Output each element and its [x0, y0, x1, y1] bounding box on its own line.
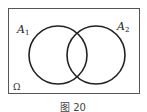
set-a2-label: A2	[116, 20, 129, 34]
venn-diagram: A1 A2 Ω 图 20	[0, 0, 147, 112]
set-a2-circle	[67, 26, 125, 84]
set-a1-label: A1	[16, 23, 29, 37]
set-a1-circle	[29, 26, 87, 84]
figure-caption: 图 20	[60, 102, 86, 112]
universe-label: Ω	[13, 82, 20, 92]
